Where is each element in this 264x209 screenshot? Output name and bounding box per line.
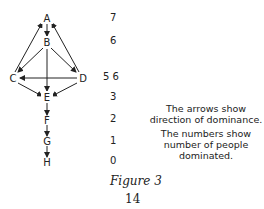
node-g: G [43, 136, 51, 147]
page-number: 14 [125, 192, 140, 206]
node-f: F [44, 115, 50, 126]
node-e: E [44, 92, 50, 103]
edge-d-e [52, 83, 77, 96]
caption-arrows: The arrows show direction of dominance. [148, 103, 264, 125]
node-a: A [44, 13, 51, 24]
figure-label: Figure 3 [110, 174, 162, 188]
level-5-6: 5 6 [103, 71, 119, 82]
level-2: 2 [110, 113, 116, 124]
node-b: B [44, 37, 51, 48]
level-1: 1 [110, 135, 116, 146]
caption-numbers: The numbers show number of people domina… [148, 128, 264, 161]
node-c: C [10, 73, 17, 84]
level-0: 0 [110, 155, 116, 166]
edge-c-a [15, 23, 42, 72]
node-d: D [79, 73, 87, 84]
edge-d-a [52, 23, 79, 72]
dominance-graph: A B C D E F G H [0, 0, 110, 175]
node-h: H [43, 157, 51, 168]
level-3: 3 [110, 91, 116, 102]
level-7: 7 [110, 12, 116, 23]
level-6: 6 [110, 35, 116, 46]
edge-c-e [18, 83, 42, 96]
